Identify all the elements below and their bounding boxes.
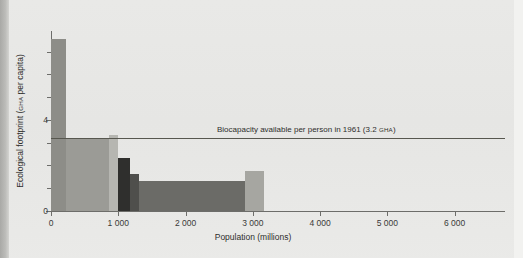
x-tick-label-1000: 1 000	[108, 218, 129, 228]
y-axis-title-tail: per capita)	[15, 54, 25, 97]
plot-area: 04 01 0002 0003 0004 0005 0006 000 Bioca…	[51, 31, 505, 211]
x-tick-3000	[253, 212, 254, 216]
page-right-edge	[514, 0, 523, 258]
x-tick-label-3000: 3 000	[242, 218, 263, 228]
annotation-text-unit: GHA	[379, 126, 393, 133]
reference-line-biocapacity-1961	[51, 138, 505, 139]
bar-band-3	[109, 135, 119, 211]
annotation-text-tail: )	[393, 125, 396, 134]
x-tick-label-4000: 4 000	[309, 218, 330, 228]
x-tick-label-5000: 5 000	[377, 218, 398, 228]
x-axis-title: Population (millions)	[51, 232, 455, 242]
x-tick-6000	[455, 212, 456, 216]
figure-page: Ecological footprint (GHA per capita) 04…	[0, 0, 523, 269]
bar-band-6	[139, 181, 245, 211]
bar-band-1	[51, 39, 66, 211]
x-tick-label-0: 0	[49, 218, 54, 228]
bar-band-4	[118, 158, 130, 211]
page-bottom-edge	[0, 258, 523, 269]
bar-band-5	[130, 174, 139, 211]
reference-line-label-biocapacity-1961: Biocapacity available per person in 1961…	[217, 125, 396, 134]
x-tick-5000	[387, 212, 388, 216]
y-tick-6	[47, 74, 51, 75]
y-tick-label-4: 4	[43, 115, 48, 125]
y-axis-title-unit: GHA	[17, 97, 24, 111]
x-tick-label-6000: 6 000	[444, 218, 465, 228]
page-binding-stripe	[0, 0, 9, 258]
y-axis-title-main: Ecological footprint (	[15, 111, 25, 188]
y-tick-2	[47, 165, 51, 166]
y-tick-7	[47, 52, 51, 53]
y-tick-5	[47, 97, 51, 98]
x-tick-label-2000: 2 000	[175, 218, 196, 228]
x-tick-0	[51, 212, 52, 216]
y-tick-3	[47, 143, 51, 144]
y-tick-1	[47, 188, 51, 189]
x-tick-1000	[118, 212, 119, 216]
bar-band-7	[245, 171, 264, 211]
x-tick-4000	[320, 212, 321, 216]
annotation-text-main: Biocapacity available per person in 1961…	[217, 125, 379, 134]
x-tick-2000	[186, 212, 187, 216]
bar-band-2	[66, 138, 108, 211]
y-tick-label-0: 0	[43, 206, 48, 216]
y-axis-title: Ecological footprint (GHA per capita)	[14, 31, 26, 211]
